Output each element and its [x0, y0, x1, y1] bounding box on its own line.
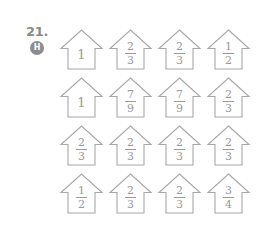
house-shape-icon: [206, 123, 251, 168]
house-shape-icon: [59, 75, 104, 120]
difficulty-badge: H: [30, 41, 44, 55]
house-shape-icon: [59, 171, 104, 216]
house-shape-icon: [206, 27, 251, 72]
house-cell[interactable]: 12: [204, 26, 253, 74]
house-shape-icon: [108, 75, 153, 120]
house-shape-icon: [108, 123, 153, 168]
worksheet: 21. H 123231217979232323232312232334: [0, 0, 256, 238]
house-shape-icon: [157, 123, 202, 168]
house-cell[interactable]: 23: [155, 26, 204, 74]
house-shape-icon: [59, 123, 104, 168]
house-cell[interactable]: 23: [204, 122, 253, 170]
house-cell[interactable]: 34: [204, 170, 253, 218]
house-grid: 123231217979232323232312232334: [57, 26, 253, 218]
house-shape-icon: [157, 171, 202, 216]
house-shape-icon: [108, 171, 153, 216]
house-cell[interactable]: 23: [57, 122, 106, 170]
house-cell[interactable]: 23: [106, 170, 155, 218]
house-cell[interactable]: 1: [57, 26, 106, 74]
house-shape-icon: [206, 75, 251, 120]
house-shape-icon: [157, 27, 202, 72]
problem-header: 21. H: [17, 25, 57, 55]
house-shape-icon: [206, 171, 251, 216]
house-cell[interactable]: 79: [155, 74, 204, 122]
house-shape-icon: [157, 75, 202, 120]
house-cell[interactable]: 23: [106, 122, 155, 170]
problem-number: 21.: [17, 25, 57, 38]
house-cell[interactable]: 23: [155, 122, 204, 170]
house-shape-icon: [59, 27, 104, 72]
house-cell[interactable]: 23: [204, 74, 253, 122]
house-cell[interactable]: 12: [57, 170, 106, 218]
house-cell[interactable]: 79: [106, 74, 155, 122]
house-cell[interactable]: 23: [155, 170, 204, 218]
house-shape-icon: [108, 27, 153, 72]
house-cell[interactable]: 23: [106, 26, 155, 74]
house-cell[interactable]: 1: [57, 74, 106, 122]
